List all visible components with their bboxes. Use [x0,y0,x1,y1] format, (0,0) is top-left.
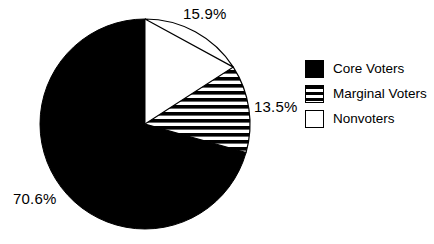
solid-black-swatch-icon [305,60,324,78]
striped-swatch-icon [305,85,324,103]
legend-label-core-voters: Core Voters [333,62,404,76]
white-swatch-icon [305,110,324,128]
chart-legend: Core Voters Marginal Voters Nonvoters [305,57,433,132]
slice-label-nonvoters-percent: 15.9% [183,5,227,22]
legend-label-nonvoters: Nonvoters [333,112,395,126]
legend-label-marginal-voters: Marginal Voters [333,87,427,101]
legend-item-nonvoters: Nonvoters [305,107,433,131]
pie-slice-nonvoters [145,19,233,67]
slice-label-core-voters-percent: 70.6% [13,190,57,207]
slice-label-marginal-voters-percent: 13.5% [254,98,298,115]
legend-item-marginal-voters: Marginal Voters [305,82,433,106]
legend-item-core-voters: Core Voters [305,57,433,81]
pie-chart-figure: 15.9% 13.5% 70.6% Core Voters Marginal V… [0,0,434,244]
